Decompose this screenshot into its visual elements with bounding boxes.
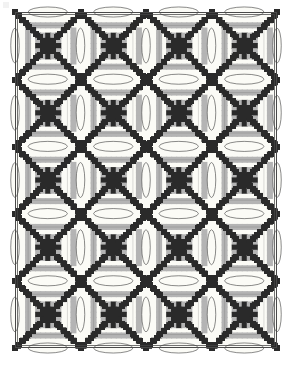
scan-artifact-mark xyxy=(3,2,9,8)
quilt-pattern-canvas xyxy=(0,0,294,365)
quilt-diagram xyxy=(0,0,294,365)
